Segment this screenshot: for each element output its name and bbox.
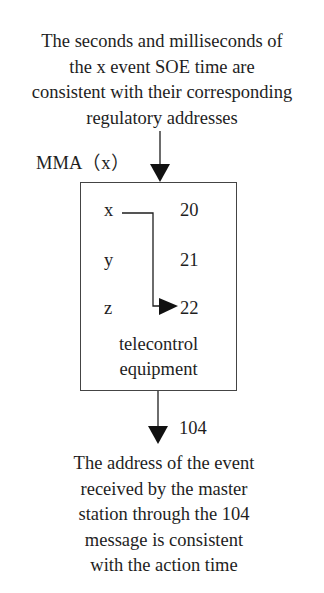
output-label: 104 (179, 418, 207, 439)
input-arrowhead-icon (150, 164, 170, 182)
device-label: telecontrol equipment (80, 332, 237, 382)
address-21: 21 (180, 250, 199, 271)
address-20: 20 (180, 200, 199, 221)
bottom-description-line: station through the 104 (40, 502, 288, 528)
device-label-line: equipment (80, 357, 237, 382)
output-arrowhead-icon (148, 426, 168, 444)
bottom-description-line: received by the master (40, 477, 288, 503)
event-z: z (104, 298, 112, 319)
bottom-description: The address of the event received by the… (40, 451, 288, 579)
bottom-description-line: The address of the event (40, 451, 288, 477)
event-y: y (104, 250, 113, 271)
device-label-line: telecontrol (80, 332, 237, 357)
address-22: 22 (180, 298, 199, 319)
event-x: x (104, 200, 113, 221)
bottom-description-line: with the action time (40, 553, 288, 579)
bottom-description-line: message is consistent (40, 528, 288, 554)
